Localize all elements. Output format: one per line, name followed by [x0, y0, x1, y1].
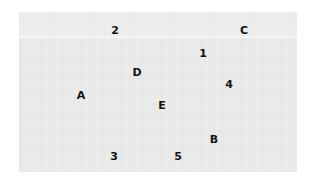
plate-top-band [19, 12, 297, 36]
plate-label-e: E [158, 100, 166, 111]
plate-label-a: A [77, 90, 86, 101]
plate-label-5: 5 [174, 151, 182, 162]
plate-label-4: 4 [225, 79, 233, 90]
gray-plate [19, 12, 297, 172]
plate-label-1: 1 [199, 48, 207, 59]
plate-label-b: B [210, 134, 218, 145]
plate-label-c: C [240, 25, 248, 36]
plate-label-2: 2 [111, 25, 119, 36]
plate-label-3: 3 [110, 151, 118, 162]
plate-label-d: D [132, 67, 141, 78]
figure-canvas: 2C1D4AEB35 [0, 0, 317, 185]
plate-seam-line [19, 36, 297, 38]
